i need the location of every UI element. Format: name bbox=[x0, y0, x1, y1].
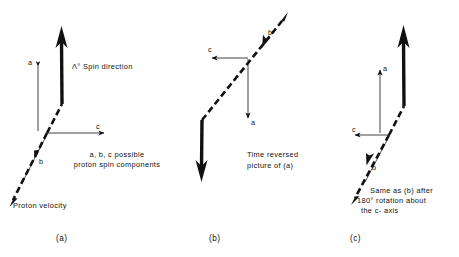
panel-b-caption-line2: picture of (a) bbox=[247, 161, 293, 171]
panel-c-graphics bbox=[351, 25, 410, 205]
panel-c-axis-b-label: b bbox=[372, 163, 376, 173]
panel-a-axis-c-label: c bbox=[96, 122, 100, 132]
panel-a-axis-a-label: a bbox=[28, 58, 32, 68]
physics-figure: a b c Λ° Spin direction a, b, c possible… bbox=[0, 0, 459, 257]
panel-c-axis-a-label: a bbox=[383, 64, 387, 74]
panel-a-spin-direction-label: Λ° Spin direction bbox=[72, 62, 133, 72]
panel-a-components-note-line2: proton spin components bbox=[62, 160, 172, 170]
panel-b-lambda-spin-vector bbox=[196, 120, 208, 182]
panel-c-caption-line1: Same as (b) after bbox=[370, 186, 433, 196]
panel-c-lambda-spin-vector bbox=[398, 25, 410, 106]
panel-b-axis-b-label: b bbox=[268, 28, 272, 38]
panel-label-a: (a) bbox=[56, 234, 68, 244]
panel-a-proton-velocity-vector bbox=[10, 133, 48, 207]
panel-b-proton-velocity-vector bbox=[202, 12, 288, 120]
panel-a-proton-velocity-label: Proton velocity bbox=[13, 201, 67, 211]
panel-c-caption-line2: 180° rotation about bbox=[357, 196, 426, 206]
panel-a-graphics bbox=[10, 26, 105, 207]
panel-label-c: (c) bbox=[350, 234, 361, 244]
panel-c-axis-c-label: c bbox=[352, 125, 356, 135]
panel-c-dashed-upper-segment bbox=[389, 106, 404, 135]
panel-c-caption-line3: the c- axis bbox=[361, 206, 399, 216]
panel-a-axis-b-label: b bbox=[39, 157, 43, 167]
panel-label-b: (b) bbox=[209, 234, 221, 244]
panel-a-dashed-upper-segment bbox=[47, 104, 62, 133]
panel-a-lambda-spin-vector bbox=[56, 26, 68, 104]
figure-vector-graphics bbox=[0, 0, 459, 257]
panel-b-axis-a-label: a bbox=[251, 118, 255, 128]
panel-a-components-note-line1: a, b, c possible bbox=[62, 150, 172, 160]
panel-b-axis-c-label: c bbox=[208, 45, 212, 55]
panel-b-caption-line1: Time reversed bbox=[247, 150, 299, 160]
